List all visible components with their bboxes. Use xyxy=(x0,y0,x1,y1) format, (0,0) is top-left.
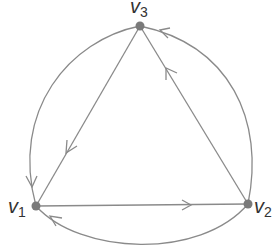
label-v2-sub: 2 xyxy=(264,204,272,220)
node-v3 xyxy=(136,22,145,31)
label-v1: v1 xyxy=(8,196,26,219)
arc-v3-v1 xyxy=(30,26,140,206)
graph-diagram: v1 v2 v3 xyxy=(0,0,276,249)
label-v3: v3 xyxy=(130,0,148,19)
label-v1-name: v xyxy=(8,195,18,217)
label-v3-name: v xyxy=(130,0,140,17)
label-v1-sub: 1 xyxy=(18,204,26,220)
node-v2 xyxy=(244,200,253,209)
arc-v2-v1 xyxy=(36,204,248,244)
node-v1 xyxy=(32,202,41,211)
graph-svg xyxy=(0,0,276,249)
edge-v3-v1 xyxy=(36,26,140,206)
label-v2: v2 xyxy=(254,196,272,219)
label-v3-sub: 3 xyxy=(140,4,148,20)
label-v2-name: v xyxy=(254,195,264,217)
edge-v2-v3 xyxy=(140,26,248,204)
arrowheads xyxy=(26,28,191,226)
edge-v1-v2 xyxy=(36,204,248,206)
